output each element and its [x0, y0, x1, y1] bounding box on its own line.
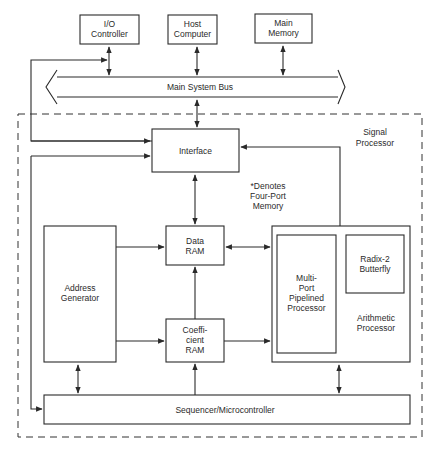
data-ram-label-1: Data — [186, 236, 204, 246]
bus-label: Main System Bus — [167, 82, 233, 92]
host-computer-label-1: Host — [184, 19, 202, 29]
note-line-3: Memory — [253, 201, 284, 211]
radix2-label-2: Butterfly — [359, 264, 391, 274]
arithmetic-processor-block: Multi- Port Pipelined Processor Radix-2 … — [272, 226, 410, 362]
coefficient-ram-block: Coeffi- cient RAM — [166, 319, 224, 362]
host-computer-label-2: Computer — [174, 29, 211, 39]
multiport-label-1: Multi- — [296, 273, 317, 283]
io-controller-block: I/O Controller — [80, 15, 139, 44]
main-memory-label-1: Main — [274, 18, 293, 28]
interface-block: Interface — [152, 129, 239, 172]
coefficient-ram-label-3: RAM — [186, 345, 205, 355]
io-controller-label-1: I/O — [104, 19, 116, 29]
arithmetic-processor-label-1: Arithmetic — [357, 313, 396, 323]
address-generator-block: Address Generator — [44, 226, 116, 362]
signal-processor-block-diagram: I/O Controller Host Computer Main Memory… — [0, 0, 439, 451]
host-computer-block: Host Computer — [168, 15, 217, 44]
note-line-2: Four-Port — [250, 191, 287, 201]
interface-label: Interface — [179, 146, 212, 156]
radix2-label-1: Radix-2 — [360, 254, 390, 264]
data-ram-block: Data RAM — [166, 226, 224, 265]
interface-to-sequencer-arrow — [31, 156, 42, 409]
sequencer-label: Sequencer/Microcontroller — [175, 405, 274, 415]
data-ram-label-2: RAM — [186, 246, 205, 256]
multiport-label-4: Processor — [287, 303, 325, 313]
sequencer-block: Sequencer/Microcontroller — [44, 395, 410, 424]
coefficient-ram-label-1: Coeffi- — [183, 325, 208, 335]
main-system-bus: Main System Bus — [46, 70, 345, 104]
main-memory-block: Main Memory — [255, 14, 312, 43]
multiport-label-3: Pipelined — [289, 293, 324, 303]
note-line-1: *Denotes — [251, 181, 286, 191]
multiport-label-2: Port — [299, 283, 315, 293]
coefficient-ram-label-2: cient — [186, 335, 205, 345]
arithmetic-processor-label-2: Processor — [357, 323, 395, 333]
io-controller-label-2: Controller — [91, 29, 128, 39]
signal-processor-label-1: Signal — [363, 127, 387, 137]
main-memory-label-2: Memory — [268, 28, 299, 38]
address-generator-label-1: Address — [64, 283, 95, 293]
address-generator-label-2: Generator — [61, 293, 99, 303]
signal-processor-label-2: Processor — [356, 138, 394, 148]
interface-to-io-line — [31, 60, 152, 141]
